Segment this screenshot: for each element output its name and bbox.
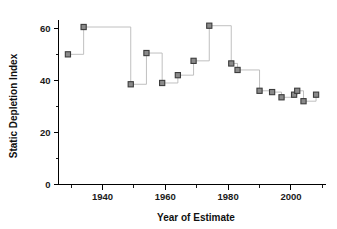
y-tick-label: 60	[40, 23, 51, 34]
x-tick-label: 1960	[155, 191, 176, 202]
y-axis-title: Static Depletion Index	[8, 53, 19, 158]
data-point-marker	[160, 80, 165, 85]
static-depletion-index-chart: 0204060 1940196019802000 Static Depletio…	[0, 0, 337, 229]
x-tick-label: 1940	[92, 191, 113, 202]
data-point-marker	[229, 61, 234, 66]
data-point-marker	[235, 67, 240, 72]
x-tick-label: 1980	[218, 191, 239, 202]
data-point-marker	[175, 73, 180, 78]
y-tick-label: 20	[40, 127, 51, 138]
data-point-marker	[270, 89, 275, 94]
data-point-marker	[295, 88, 300, 93]
data-point-marker	[257, 88, 262, 93]
y-tick-label: 40	[40, 75, 51, 86]
chart-figure: 0204060 1940196019802000 Static Depletio…	[0, 0, 337, 229]
x-tick-label: 2000	[280, 191, 301, 202]
data-point-marker	[279, 95, 284, 100]
y-tick-label: 0	[45, 179, 50, 190]
data-point-marker	[144, 50, 149, 55]
data-point-marker	[301, 99, 306, 104]
data-point-marker	[313, 92, 318, 97]
data-point-marker	[207, 23, 212, 28]
data-point-marker	[81, 24, 86, 29]
data-point-marker	[128, 82, 133, 87]
data-point-marker	[191, 58, 196, 63]
x-axis-title: Year of Estimate	[157, 212, 235, 223]
data-point-marker	[65, 52, 70, 57]
